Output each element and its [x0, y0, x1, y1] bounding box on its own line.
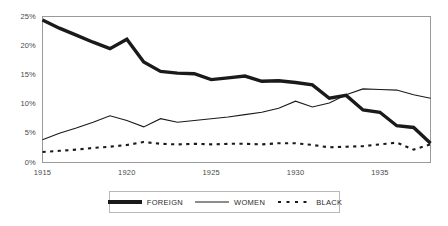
legend-label-foreign: FOREIGN [147, 198, 183, 207]
y-tick-label: 25% [10, 12, 36, 21]
legend-swatch-women [194, 198, 230, 206]
x-tick-label: 1935 [360, 168, 400, 177]
legend-swatch-black [276, 198, 312, 206]
x-tick-label: 1915 [23, 168, 63, 177]
legend-swatch-foreign [107, 198, 143, 206]
x-tick-label: 1930 [276, 168, 316, 177]
y-tick-label: 0% [10, 158, 36, 167]
y-tick-label: 5% [10, 128, 36, 137]
legend-item-foreign[interactable]: FOREIGN [107, 198, 183, 207]
x-tick-label: 1925 [191, 168, 231, 177]
legend-label-women: WOMEN [234, 198, 265, 207]
line-chart: 0%5%10%15%20%25% 19151920192519301935 FO… [0, 0, 448, 226]
x-tick-label: 1920 [107, 168, 147, 177]
legend-label-black: BLACK [316, 198, 342, 207]
y-tick-label: 15% [10, 70, 36, 79]
y-tick-label: 20% [10, 41, 36, 50]
chart-legend: FOREIGN WOMEN BLACK [109, 191, 340, 213]
legend-item-black[interactable]: BLACK [276, 198, 342, 207]
y-tick-label: 10% [10, 99, 36, 108]
legend-item-women[interactable]: WOMEN [194, 198, 265, 207]
